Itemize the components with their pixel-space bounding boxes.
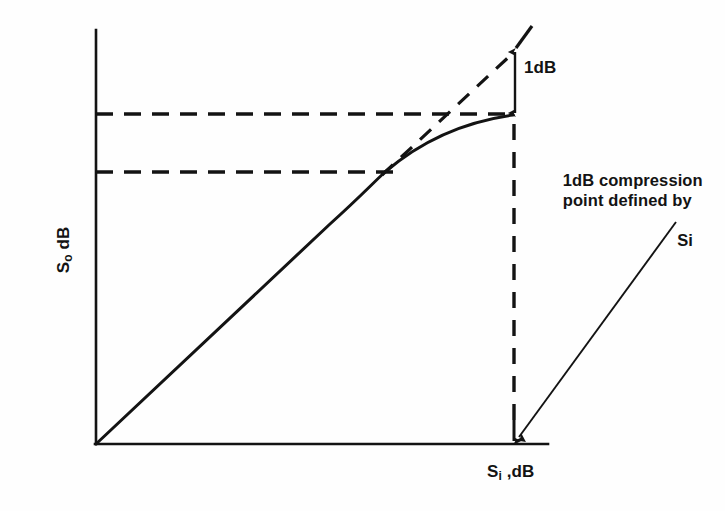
y-axis-label-subscript: o [61,254,75,261]
actual-output-curve [96,115,513,444]
ideal-linear-line [382,26,532,175]
ideal-linear-tail [516,26,532,48]
annotation-line-1: 1dB compression [563,171,703,189]
y-axis-label-symbol: S [54,262,73,273]
annotation-line-2: point defined by [563,191,692,209]
annotation-line-3: Si [544,230,720,250]
y-axis-label: So dB [54,190,75,310]
x-axis-label-symbol: S [487,462,498,481]
actual-output-path [96,115,513,444]
compression-point-annotation: 1dB compression point defined by Si [544,150,720,290]
one-db-measurement-label: 1dB [524,58,556,78]
y-axis-label-unit: dB [54,227,73,255]
x-axis-label: Si ,dB [487,462,534,483]
compression-point-figure: So dB Si ,dB 1dB 1dB compression point d… [0,0,725,511]
reference-lines-group [96,114,516,441]
x-axis-label-unit: ,dB [502,462,535,481]
